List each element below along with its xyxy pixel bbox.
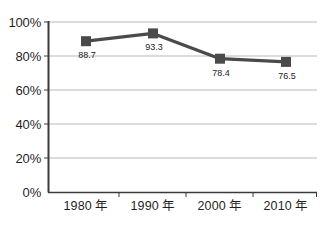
x-axis-label-1980: 1980 年 bbox=[64, 199, 109, 213]
x-axis-labels: 1980 年 1990 年 2000 年 2010 年 bbox=[64, 199, 309, 213]
y-axis-label-20: 20% bbox=[16, 151, 42, 166]
y-axis-label-0: 0% bbox=[23, 185, 42, 200]
line-chart: 100% 80% 60% 40% 20% 0% 1980 年 1990 年 20… bbox=[0, 0, 328, 230]
y-axis-labels: 100% 80% 60% 40% 20% 0% bbox=[9, 15, 42, 200]
x-axis-label-2010: 2010 年 bbox=[264, 199, 309, 213]
data-point-marker-2000 bbox=[215, 54, 225, 64]
data-point-marker-1980 bbox=[81, 36, 91, 46]
y-axis-label-100: 100% bbox=[9, 15, 42, 30]
y-axis-label-40: 40% bbox=[16, 117, 42, 132]
data-value-label-1980: 88.7 bbox=[78, 50, 96, 60]
x-axis-label-2000: 2000 年 bbox=[198, 199, 243, 213]
y-axis-label-80: 80% bbox=[16, 49, 42, 64]
data-point-marker-2010 bbox=[281, 57, 291, 67]
y-axis-label-60: 60% bbox=[16, 83, 42, 98]
y-axis-ticks bbox=[44, 22, 48, 158]
x-axis-label-1990: 1990 年 bbox=[131, 199, 176, 213]
data-series-line bbox=[86, 33, 286, 62]
data-value-label-2000: 78.4 bbox=[212, 68, 230, 78]
data-value-label-1990: 93.3 bbox=[145, 42, 163, 52]
chart-canvas: 100% 80% 60% 40% 20% 0% 1980 年 1990 年 20… bbox=[0, 0, 328, 230]
data-value-label-2010: 76.5 bbox=[278, 71, 296, 81]
data-point-marker-1990 bbox=[148, 28, 158, 38]
